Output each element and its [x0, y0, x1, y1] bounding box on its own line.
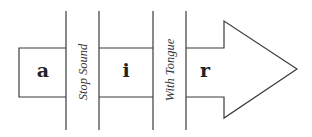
segment-letter-r: r	[200, 59, 211, 81]
separator-label-with-tongue: With Tongue	[163, 38, 177, 101]
separator-label-stop-sound: Stop Sound	[76, 43, 90, 100]
sound-flow-diagram: a i r Stop Sound With Tongue	[0, 0, 312, 137]
segment-letter-i: i	[122, 59, 129, 81]
segment-letter-a: a	[37, 59, 49, 81]
